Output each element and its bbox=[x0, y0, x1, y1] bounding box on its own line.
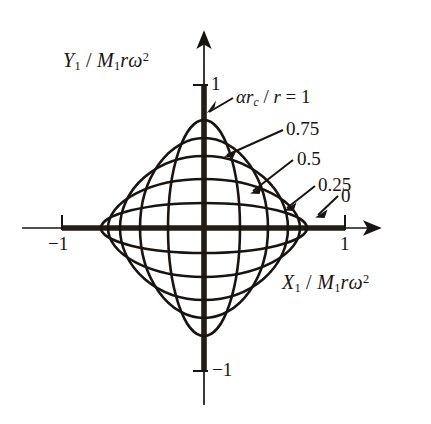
y-axis-title-slash: / bbox=[81, 49, 97, 71]
axis-lines bbox=[22, 32, 380, 405]
figure-container: Y1 / M1rω2 X1 / M1rω2 1 −1 −1 1 αrc / r … bbox=[0, 0, 431, 424]
y-axis-title-rest: rω bbox=[120, 49, 143, 71]
curve-label-alpha-1: αrc / r = 1 bbox=[236, 87, 311, 109]
x-axis-title: X1 / M1rω2 bbox=[282, 272, 369, 295]
x-axis-title-rest: rω bbox=[340, 271, 363, 293]
alpha-symbol: α bbox=[236, 86, 246, 107]
tick-label-y-bottom: −1 bbox=[212, 360, 232, 379]
x-axis-title-mass: M bbox=[317, 271, 334, 293]
curve-label-0-75: 0.75 bbox=[286, 119, 319, 138]
param-equals: = bbox=[281, 86, 301, 107]
y-axis-title-mass: M bbox=[97, 49, 114, 71]
param-denominator: r bbox=[273, 86, 280, 107]
leader-alpha-0 bbox=[318, 196, 338, 215]
leader-alpha-1 bbox=[209, 98, 233, 112]
y-axis-title-var: Y bbox=[63, 49, 74, 71]
curve-label-0-5: 0.5 bbox=[297, 149, 321, 168]
curve-label-0: 0 bbox=[341, 186, 351, 205]
tick-label-x-right: 1 bbox=[340, 234, 350, 253]
x-axis-title-exp: 2 bbox=[363, 272, 370, 286]
param-divider: / bbox=[259, 86, 274, 107]
y-axis-title: Y1 / M1rω2 bbox=[63, 50, 149, 73]
x-axis-title-slash: / bbox=[301, 271, 317, 293]
leader-alpha-0-25 bbox=[287, 186, 315, 208]
tick-label-y-top: 1 bbox=[211, 74, 221, 93]
x-axis-title-var: X bbox=[282, 271, 295, 293]
y-axis-title-exp: 2 bbox=[143, 50, 150, 64]
param-value: 1 bbox=[301, 86, 311, 107]
tick-label-x-left: −1 bbox=[48, 234, 68, 253]
